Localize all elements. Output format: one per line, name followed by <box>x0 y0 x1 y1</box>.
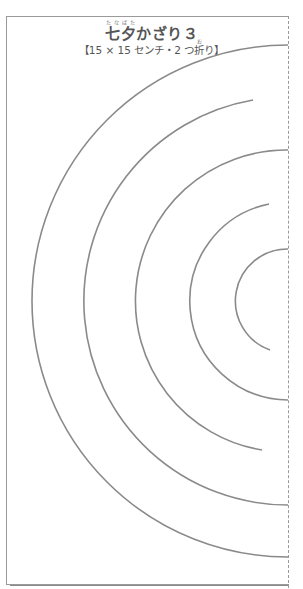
cut-lines <box>0 0 303 589</box>
cut-arc-3 <box>135 150 288 450</box>
cut-arc-2 <box>190 204 288 400</box>
cut-arc-1 <box>235 249 288 350</box>
cut-arc-4 <box>84 100 288 505</box>
cut-arc-5 <box>32 45 288 557</box>
